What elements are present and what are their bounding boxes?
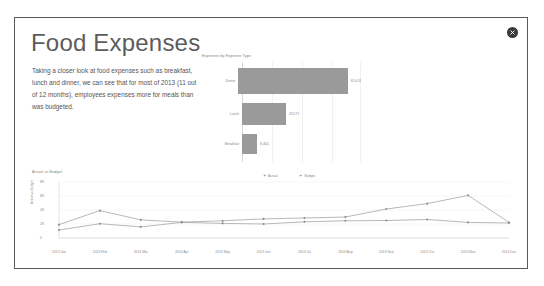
y-axis-tick: 4K (40, 208, 44, 212)
description-paragraph: Taking a closer look at food expenses su… (32, 65, 198, 112)
line-chart-svg (31, 178, 515, 248)
bar-value-label: 8,464 (260, 142, 269, 146)
y-axis-tick: 8K (40, 180, 44, 184)
line-chart-plot: Actual vs Budget 02K4K6K8K2013 Jan2013 F… (31, 178, 515, 248)
data-point-marker[interactable] (58, 229, 61, 232)
data-point-marker[interactable] (99, 222, 102, 225)
data-point-marker[interactable] (344, 220, 347, 223)
bar-fill (238, 68, 347, 94)
close-x-glyph (509, 29, 516, 36)
data-point-marker[interactable] (303, 220, 306, 223)
data-point-marker[interactable] (426, 218, 429, 221)
bar-track: 61,074 (238, 68, 361, 94)
x-axis-tick: 2013 Apr (175, 250, 189, 254)
bar-value-label: 61,074 (351, 79, 361, 83)
x-axis-tick: 2013 Jun (257, 250, 271, 254)
line-chart: Actual vs Budget ✦ Actual ✦ Budget Actua… (31, 170, 515, 260)
data-point-marker[interactable] (303, 217, 306, 220)
data-point-marker[interactable] (262, 223, 265, 226)
bar-category-label: Lunch (201, 112, 242, 116)
data-point-marker[interactable] (180, 221, 183, 224)
bar-row[interactable]: Breakfast 8,464 (201, 134, 361, 154)
x-axis-tick: 2013 Mar (134, 250, 148, 254)
line-series-budget (59, 220, 509, 231)
x-axis-tick: 2013 May (215, 250, 230, 254)
bar-fill (242, 103, 286, 125)
bar-chart-plot: Dinner 61,074 Lunch 24,571 Breakfast (201, 62, 361, 162)
bar-track: 24,571 (242, 103, 361, 125)
x-axis-tick: 2013 Feb (93, 250, 107, 254)
bar-fill (242, 134, 257, 154)
close-icon[interactable] (507, 27, 518, 38)
x-axis-tick: 2013 Nov (461, 250, 476, 254)
page-title: Food Expenses (31, 29, 200, 57)
x-axis-tick: 2013 Jan (52, 250, 66, 254)
y-axis-tick: 2K (40, 222, 44, 226)
data-point-marker[interactable] (385, 219, 388, 222)
data-point-marker[interactable] (344, 216, 347, 219)
bar-row[interactable]: Lunch 24,571 (201, 103, 361, 125)
bar-category-label: Breakfast (201, 142, 242, 146)
data-point-marker[interactable] (140, 219, 143, 222)
content-card: Food Expenses Taking a closer look at fo… (14, 17, 528, 269)
data-point-marker[interactable] (262, 218, 265, 221)
y-axis-tick: 0 (40, 236, 42, 240)
x-axis-tick: 2013 Dec (502, 250, 517, 254)
x-axis-tick: 2013 Aug (338, 250, 352, 254)
bar-row[interactable]: Dinner 61,074 (201, 68, 361, 94)
bar-track: 8,464 (242, 134, 361, 154)
data-point-marker[interactable] (140, 226, 143, 229)
slide-page: Food Expenses Taking a closer look at fo… (0, 0, 544, 286)
data-point-marker[interactable] (467, 221, 470, 224)
x-axis-tick: 2013 Oct (420, 250, 434, 254)
data-point-marker[interactable] (221, 220, 224, 223)
x-axis-tick: 2013 Sep (379, 250, 394, 254)
x-axis-tick: 2013 Jul (298, 250, 311, 254)
y-axis-tick: 6K (40, 194, 44, 198)
bar-value-label: 24,571 (289, 112, 299, 116)
bar-chart: Expenses by Expense Type Dinner 61,074 L… (201, 54, 361, 168)
data-point-marker[interactable] (426, 202, 429, 205)
bar-category-label: Dinner (201, 79, 238, 83)
bar-chart-title: Expenses by Expense Type (202, 54, 361, 58)
